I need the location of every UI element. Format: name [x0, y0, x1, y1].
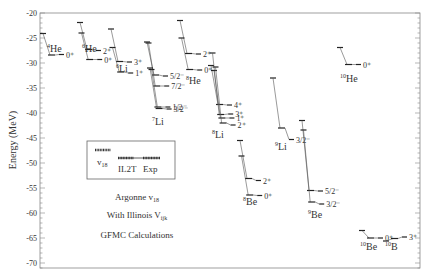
nucleus-8Li: 4⁺3⁺1⁺2⁺8Li: [208, 53, 246, 140]
level-label: 3/2⁻: [296, 136, 310, 145]
level-label: 0⁺: [264, 192, 272, 201]
level-label: 0⁺: [66, 51, 74, 60]
nucleus-8Be: 2⁺0⁺8Be: [237, 141, 272, 208]
level-label: 3⁺: [409, 233, 417, 242]
nucleus-label: 8He: [186, 75, 201, 86]
nucleus-label: 9Be: [308, 209, 323, 220]
y-tick-label: -30: [26, 59, 37, 68]
nucleus-4He: 0⁺4He: [40, 34, 74, 60]
y-tick-label: -35: [26, 84, 37, 93]
y-tick-label: -25: [26, 34, 37, 43]
level-label: 2⁺: [263, 177, 271, 186]
y-tick-label: -55: [26, 184, 37, 193]
level-label: 3⁺: [134, 58, 142, 67]
level-label: 2⁺: [203, 50, 211, 59]
y-axis-label: Energy (MeV): [7, 111, 19, 169]
y-tick-label: -60: [26, 209, 37, 218]
nucleus-label: 10He: [340, 73, 358, 84]
nucleus-label: 10B: [385, 241, 398, 252]
level-label: 3/2⁻: [174, 105, 188, 114]
y-tick-label: -65: [26, 234, 37, 243]
y-tick-label: -20: [26, 9, 37, 18]
y-tick-label: -40: [26, 109, 37, 118]
legend: v18 IL2T Exp: [87, 141, 175, 179]
nucleus-7Li: 5/2⁻7/2⁻1/2⁻3/2⁻7Li: [144, 42, 188, 127]
level-label: 7/2⁻: [171, 82, 185, 91]
y-tick-label: -45: [26, 134, 37, 143]
level-label: 5/2⁻: [325, 187, 339, 196]
nucleus-label: 8Be: [243, 196, 258, 207]
energy-level-diagram: -20-25-30-35-40-45-50-55-60-65-70 Energy…: [0, 0, 431, 275]
level-label: 4⁺: [234, 101, 242, 110]
level-label: 0⁺: [363, 61, 371, 70]
level-label: 2⁺: [238, 121, 246, 130]
annotation-argonne: Argonne v18: [115, 192, 159, 203]
nucleus-label: 6He: [82, 43, 97, 54]
nucleus-label: 7Li: [152, 116, 164, 127]
level-label: 5/2⁻: [170, 72, 184, 81]
annotations: Argonne v18 With Illinois Vijk GFMC Calc…: [101, 192, 174, 240]
annotation-gfmc: GFMC Calculations: [101, 230, 174, 240]
nucleus-label: 8Li: [212, 129, 224, 140]
y-tick-label: -50: [26, 159, 37, 168]
level-lines: 0⁺4He2⁺0⁺6He3⁺1⁺6Li5/2⁻7/2⁻1/2⁻3/2⁻7Li2⁺…: [40, 21, 417, 253]
annotation-illinois: With Illinois Vijk: [107, 210, 167, 221]
legend-exp-label: Exp: [143, 164, 158, 174]
nucleus-10He: 0⁺10He: [337, 48, 371, 85]
nucleus-6Li: 3⁺1⁺6Li: [108, 29, 143, 78]
nucleus-label: 9Li: [275, 141, 287, 152]
nucleus-label: 10Be: [360, 241, 378, 252]
level-label: 3/2⁻: [326, 200, 340, 209]
nucleus-6He: 2⁺0⁺6He: [77, 23, 112, 65]
y-tick-label: -70: [26, 259, 37, 268]
legend-il2t-label: IL2T: [118, 164, 137, 174]
level-label: 1⁺: [135, 69, 143, 78]
nucleus-label: 4He: [47, 43, 62, 54]
level-label: 0⁺: [104, 56, 112, 65]
